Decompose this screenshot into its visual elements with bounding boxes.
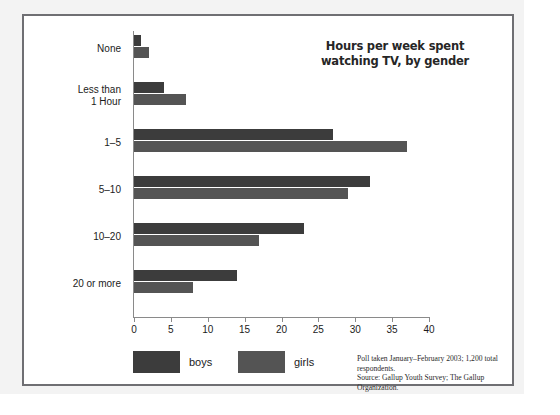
x-axis-tick-label: 20 xyxy=(276,324,287,335)
x-axis-tick-label: 25 xyxy=(313,324,324,335)
y-axis-category-label: 10–20 xyxy=(93,231,121,243)
chart-frame-inner: Hours per week spent watching TV, by gen… xyxy=(24,16,512,384)
x-axis-tick xyxy=(355,317,356,322)
legend-label-girls: girls xyxy=(294,356,314,368)
x-axis-tick xyxy=(245,317,246,322)
x-axis-tick-label: 30 xyxy=(350,324,361,335)
bar-boys xyxy=(134,176,370,187)
legend-swatch-boys-icon xyxy=(133,351,180,373)
chart-frame: Hours per week spent watching TV, by gen… xyxy=(22,14,514,386)
x-axis-tick-label: 0 xyxy=(131,324,137,335)
x-axis-tick-label: 40 xyxy=(423,324,434,335)
bar-girls xyxy=(134,47,149,58)
bar-girls xyxy=(134,188,348,199)
legend-item-boys: boys xyxy=(133,351,212,373)
legend-item-girls: girls xyxy=(238,351,314,373)
x-axis-tick-label: 15 xyxy=(239,324,250,335)
bar-girls xyxy=(134,282,193,293)
x-axis-tick-label: 35 xyxy=(387,324,398,335)
bar-girls xyxy=(134,235,259,246)
legend-swatch-girls-icon xyxy=(238,351,285,373)
figure-page: Hours per week spent watching TV, by gen… xyxy=(0,0,560,415)
bar-boys xyxy=(134,82,164,93)
chart-legend: boys girls Poll taken January–February 2… xyxy=(133,351,513,385)
plot-area: 0510152025303540NoneLess than 1 Hour1–55… xyxy=(25,17,515,387)
x-axis-tick xyxy=(392,317,393,322)
source-note: Poll taken January–February 2003; 1,200 … xyxy=(357,354,513,392)
y-axis-category-label: None xyxy=(97,43,121,55)
bar-girls xyxy=(134,141,407,152)
x-axis-tick xyxy=(282,317,283,322)
legend-label-boys: boys xyxy=(189,356,212,368)
bar-boys xyxy=(134,35,141,46)
bar-boys xyxy=(134,223,304,234)
x-axis-tick xyxy=(429,317,430,322)
bar-girls xyxy=(134,94,186,105)
x-axis-tick-label: 5 xyxy=(168,324,174,335)
bar-boys xyxy=(134,270,237,281)
y-axis-category-label: 1–5 xyxy=(104,137,121,149)
bar-boys xyxy=(134,129,333,140)
x-axis-tick xyxy=(171,317,172,322)
x-axis-tick xyxy=(208,317,209,322)
x-axis-tick-label: 10 xyxy=(202,324,213,335)
y-axis-category-label: 5–10 xyxy=(99,184,121,196)
x-axis-tick xyxy=(318,317,319,322)
y-axis-category-label: 20 or more xyxy=(73,278,121,290)
y-axis-category-label: Less than 1 Hour xyxy=(78,84,121,108)
x-axis-tick xyxy=(134,317,135,322)
